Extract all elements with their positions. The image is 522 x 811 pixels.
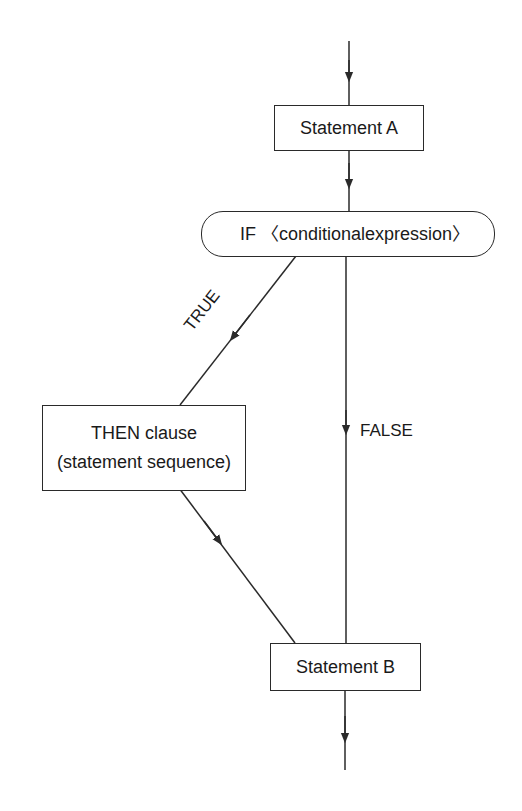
- statement-b-label: Statement B: [296, 653, 395, 682]
- then-to-b-arrow: [204, 521, 219, 541]
- then-clause-box: THEN clause (statement sequence): [42, 405, 246, 491]
- true-branch-arrow: [233, 315, 250, 337]
- then-clause-line2: (statement sequence): [57, 448, 231, 477]
- statement-a-box: Statement A: [274, 105, 424, 151]
- condition-terminal: IF 〈conditionalexpression〉: [201, 211, 495, 257]
- false-label: FALSE: [360, 421, 413, 441]
- then-clause-line1: THEN clause: [91, 419, 197, 448]
- statement-a-label: Statement A: [300, 114, 398, 143]
- statement-b-box: Statement B: [270, 643, 421, 691]
- then-to-b-line: [179, 488, 295, 643]
- condition-label: IF 〈conditionalexpression〉: [240, 220, 470, 249]
